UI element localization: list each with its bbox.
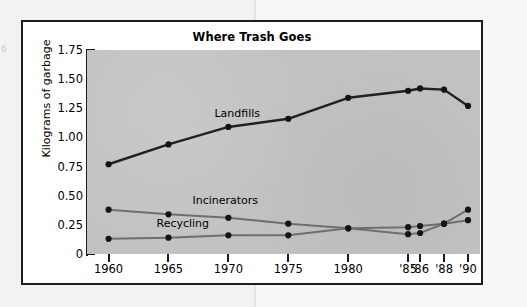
data-point — [285, 116, 291, 122]
x-tick-mark — [443, 254, 445, 262]
data-point — [285, 221, 291, 227]
data-point — [225, 232, 231, 238]
margin-page-number: 6 — [1, 38, 15, 60]
x-tick-label: '88 — [435, 262, 453, 276]
x-tick-label: 1965 — [154, 262, 183, 276]
x-tick-label: '90 — [459, 262, 477, 276]
data-point — [465, 217, 471, 223]
data-point — [225, 124, 231, 130]
data-lines — [87, 50, 480, 254]
data-point — [165, 235, 171, 241]
data-point — [441, 221, 447, 227]
x-tick-mark — [167, 254, 169, 262]
y-tick-label: 0.25 — [37, 218, 83, 232]
plot-area — [87, 50, 480, 254]
chart-figure: Where Trash Goes Kilograms of garbage 1.… — [21, 20, 483, 285]
x-tick-label: 1980 — [334, 262, 363, 276]
x-tick-label: '86 — [411, 262, 429, 276]
data-point — [105, 207, 111, 213]
data-point — [345, 225, 351, 231]
data-point — [285, 232, 291, 238]
x-tick-mark — [287, 254, 289, 262]
data-point — [417, 85, 423, 91]
y-tick-label: 0.75 — [37, 160, 83, 174]
x-tick-label: 1975 — [274, 262, 303, 276]
data-point — [465, 103, 471, 109]
data-point — [417, 230, 423, 236]
x-tick-mark — [347, 254, 349, 262]
data-point — [165, 141, 171, 147]
x-tick-mark — [108, 254, 110, 262]
data-point — [405, 224, 411, 230]
data-point — [345, 95, 351, 101]
series-label-incinerators: Incinerators — [192, 194, 258, 207]
y-tick-label: 0.50 — [37, 189, 83, 203]
data-point — [405, 88, 411, 94]
data-point — [417, 223, 423, 229]
x-tick-mark — [467, 254, 469, 262]
data-point — [441, 87, 447, 93]
chart-title: Where Trash Goes — [23, 30, 481, 44]
x-tick-mark — [419, 254, 421, 262]
y-tick-label: 1.00 — [37, 130, 83, 144]
x-tick-mark — [407, 254, 409, 262]
x-tick-mark — [227, 254, 229, 262]
y-axis-label: Kilograms of garbage — [40, 14, 53, 184]
data-point — [465, 207, 471, 213]
series-line-landfills — [109, 88, 468, 164]
y-tick-label: 1.50 — [37, 72, 83, 86]
x-tick-label: 1970 — [214, 262, 243, 276]
y-tick-label: 1.75 — [37, 43, 83, 57]
data-point — [105, 161, 111, 167]
data-point — [105, 236, 111, 242]
y-tick-label: 0 — [37, 247, 83, 261]
series-label-recycling: Recycling — [156, 217, 209, 230]
series-label-landfills: Landfills — [214, 107, 260, 120]
x-tick-label: 1960 — [94, 262, 123, 276]
y-tick-label: 1.25 — [37, 101, 83, 115]
data-point — [405, 231, 411, 237]
data-point — [225, 215, 231, 221]
